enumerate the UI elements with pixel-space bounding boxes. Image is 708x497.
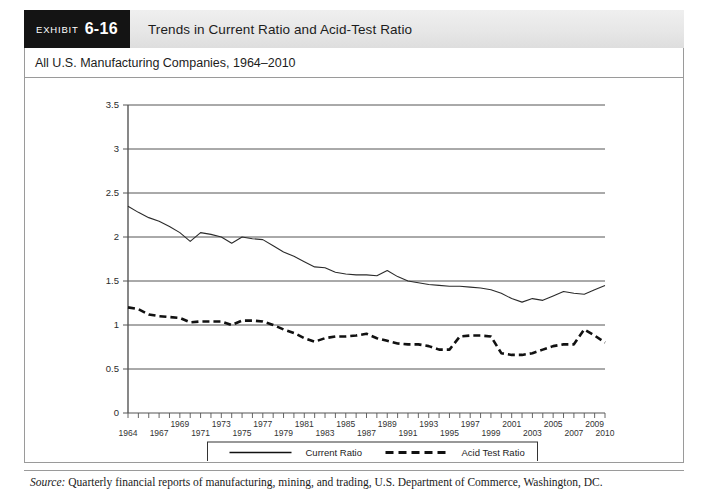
series-line	[128, 307, 605, 355]
x-axis-tick-label: 1977	[253, 419, 272, 429]
y-axis-tick-label: 1.5	[106, 275, 119, 286]
source-note: Source: Quarterly financial reports of m…	[30, 476, 690, 488]
chart-frame: 00.511.522.533.5196919731977198119851989…	[24, 78, 684, 463]
source-label: Source:	[30, 476, 65, 488]
x-axis-tick-label: 1989	[378, 419, 397, 429]
x-axis-tick-label: 1993	[419, 419, 438, 429]
page-title: Trends in Current Ratio and Acid-Test Ra…	[148, 22, 412, 37]
x-axis-tick-label: 1975	[233, 428, 252, 438]
source-divider	[24, 470, 684, 471]
x-axis-tick-label: 1964	[119, 428, 138, 438]
y-axis-tick-label: 0.5	[106, 363, 119, 374]
y-axis-tick-label: 3	[114, 143, 119, 154]
exhibit-title-bar: Trends in Current Ratio and Acid-Test Ra…	[130, 10, 684, 48]
legend-label: Acid Test Ratio	[462, 447, 525, 458]
x-axis-tick-label: 2005	[544, 419, 563, 429]
series-line	[128, 206, 605, 302]
y-axis-tick-label: 1	[114, 319, 119, 330]
x-axis-tick-label: 2007	[564, 428, 583, 438]
x-axis-tick-label: 1971	[191, 428, 210, 438]
exhibit-word-label: EXHIBIT	[36, 24, 79, 35]
x-axis-tick-label: 1997	[461, 419, 480, 429]
exhibit-number-label: 6-16	[85, 20, 118, 38]
legend-label: Current Ratio	[306, 447, 363, 458]
x-axis-tick-label: 1985	[336, 419, 355, 429]
x-axis-tick-label: 1981	[295, 419, 314, 429]
x-axis-tick-label: 1979	[274, 428, 293, 438]
exhibit-header: EXHIBIT 6-16 Trends in Current Ratio and…	[24, 10, 684, 48]
line-chart: 00.511.522.533.5196919731977198119851989…	[25, 78, 683, 461]
x-axis-tick-label: 1973	[212, 419, 231, 429]
x-axis-tick-label: 2001	[502, 419, 521, 429]
y-axis-tick-label: 0	[114, 407, 119, 418]
exhibit-subtitle-band: All U.S. Manufacturing Companies, 1964–2…	[24, 48, 684, 78]
x-axis-tick-label: 1969	[170, 419, 189, 429]
source-text: Quarterly financial reports of manufactu…	[68, 476, 602, 488]
exhibit-badge: EXHIBIT 6-16	[24, 10, 130, 48]
y-axis-tick-label: 2	[114, 231, 119, 242]
y-axis-tick-label: 3.5	[106, 99, 119, 110]
x-axis-tick-label: 1983	[316, 428, 335, 438]
x-axis-tick-label: 2003	[523, 428, 542, 438]
x-axis-tick-label: 1987	[357, 428, 376, 438]
x-axis-tick-label: 1991	[399, 428, 418, 438]
exhibit-container: EXHIBIT 6-16 Trends in Current Ratio and…	[0, 0, 708, 497]
x-axis-tick-label: 2010	[596, 428, 615, 438]
x-axis-tick-label: 1967	[150, 428, 169, 438]
x-axis-tick-label: 1995	[440, 428, 459, 438]
exhibit-subtitle: All U.S. Manufacturing Companies, 1964–2…	[35, 56, 296, 70]
x-axis-tick-label: 1999	[481, 428, 500, 438]
y-axis-tick-label: 2.5	[106, 187, 119, 198]
